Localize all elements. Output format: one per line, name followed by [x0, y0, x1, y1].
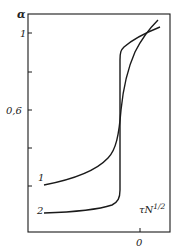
curve-2-label: 2 — [36, 205, 43, 216]
curve-2 — [44, 27, 160, 213]
plot-frame — [28, 14, 170, 232]
y-tick-label-0-6: 0,6 — [6, 105, 23, 116]
x-axis-label-main: τN — [139, 204, 155, 215]
alpha-vs-tau-chart: α 1 0,6 0 τN1/2 1 2 — [0, 0, 178, 248]
x-axis-label-superscript: 1/2 — [153, 202, 165, 211]
x-tick-label-0: 0 — [136, 237, 143, 248]
y-axis-ticks — [28, 33, 32, 186]
y-tick-label-1: 1 — [20, 28, 26, 39]
x-axis-label: τN1/2 — [139, 202, 166, 215]
curve-1-label: 1 — [38, 172, 44, 183]
y-axis-label: α — [17, 8, 26, 21]
curve-1 — [44, 20, 158, 185]
